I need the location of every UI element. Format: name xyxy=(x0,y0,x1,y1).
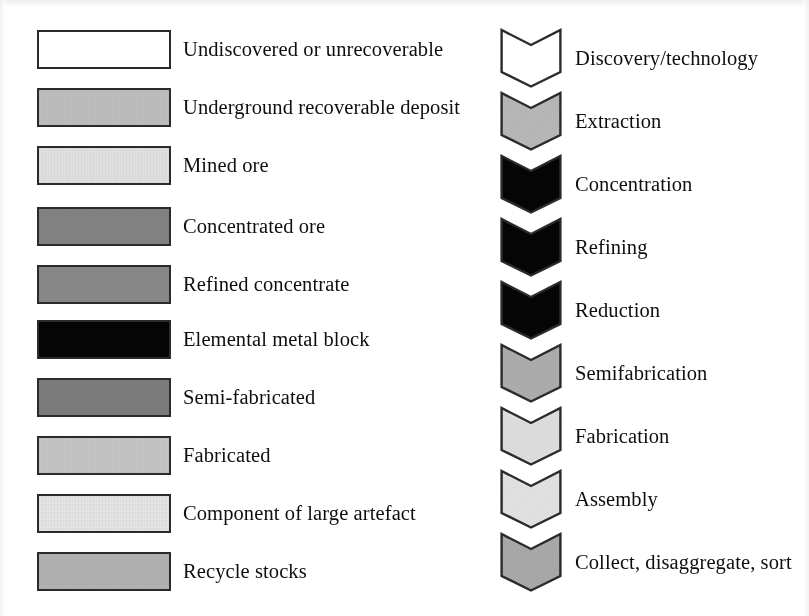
legend-row-material: Elemental metal block xyxy=(37,320,370,359)
chevron-extraction xyxy=(500,91,562,151)
legend-label-process: Semifabrication xyxy=(575,362,707,385)
swatch-component-of-large-artefact xyxy=(37,494,171,533)
legend-label-material: Fabricated xyxy=(183,444,271,467)
swatch-mined-ore xyxy=(37,146,171,185)
chevron-fabrication xyxy=(500,406,562,466)
legend-label-material: Mined ore xyxy=(183,154,269,177)
chevron-semifabrication xyxy=(500,343,562,403)
chevron-concentration xyxy=(500,154,562,214)
swatch-refined-concentrate xyxy=(37,265,171,304)
swatch-semi-fabricated xyxy=(37,378,171,417)
legend-row-material: Mined ore xyxy=(37,146,269,185)
legend-row-material: Concentrated ore xyxy=(37,207,325,246)
legend-figure: Undiscovered or unrecoverableUnderground… xyxy=(0,0,809,616)
legend-label-process: Fabrication xyxy=(575,425,669,448)
legend-label-process: Discovery/technology xyxy=(575,47,758,70)
legend-row-process: Semifabrication xyxy=(500,343,707,403)
swatch-underground-recoverable-deposit xyxy=(37,88,171,127)
legend-row-material: Undiscovered or unrecoverable xyxy=(37,30,443,69)
swatch-recycle-stocks xyxy=(37,552,171,591)
legend-label-process: Concentration xyxy=(575,173,692,196)
chevron-assembly xyxy=(500,469,562,529)
legend-row-process: Collect, disaggregate, sort xyxy=(500,532,792,592)
legend-row-process: Assembly xyxy=(500,469,658,529)
legend-label-process: Assembly xyxy=(575,488,658,511)
swatch-elemental-metal-block xyxy=(37,320,171,359)
legend-row-process: Fabrication xyxy=(500,406,669,466)
chevron-collect-disaggregate-sort xyxy=(500,532,562,592)
chevron-discovery-technology xyxy=(500,28,562,88)
legend-label-process: Collect, disaggregate, sort xyxy=(575,551,792,574)
legend-row-process: Discovery/technology xyxy=(500,28,758,88)
legend-row-material: Fabricated xyxy=(37,436,271,475)
legend-label-material: Underground recoverable deposit xyxy=(183,96,460,119)
legend-label-process: Refining xyxy=(575,236,648,259)
chevron-reduction xyxy=(500,280,562,340)
legend-row-material: Recycle stocks xyxy=(37,552,307,591)
legend-row-process: Refining xyxy=(500,217,648,277)
legend-row-material: Underground recoverable deposit xyxy=(37,88,460,127)
swatch-undiscovered-or-unrecoverable xyxy=(37,30,171,69)
legend-row-material: Component of large artefact xyxy=(37,494,416,533)
legend-row-process: Extraction xyxy=(500,91,661,151)
legend-label-material: Semi-fabricated xyxy=(183,386,315,409)
chevron-refining xyxy=(500,217,562,277)
legend-label-material: Component of large artefact xyxy=(183,502,416,525)
legend-label-material: Refined concentrate xyxy=(183,273,349,296)
legend-label-material: Undiscovered or unrecoverable xyxy=(183,38,443,61)
swatch-concentrated-ore xyxy=(37,207,171,246)
legend-row-process: Reduction xyxy=(500,280,660,340)
legend-label-material: Elemental metal block xyxy=(183,328,370,351)
legend-label-process: Extraction xyxy=(575,110,661,133)
legend-row-material: Semi-fabricated xyxy=(37,378,315,417)
legend-label-material: Concentrated ore xyxy=(183,215,325,238)
swatch-fabricated xyxy=(37,436,171,475)
legend-label-process: Reduction xyxy=(575,299,660,322)
legend-row-process: Concentration xyxy=(500,154,692,214)
legend-label-material: Recycle stocks xyxy=(183,560,307,583)
legend-row-material: Refined concentrate xyxy=(37,265,349,304)
